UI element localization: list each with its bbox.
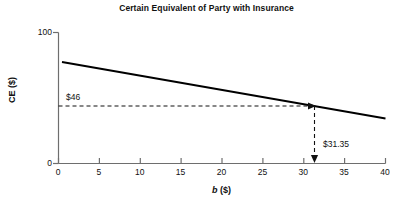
b-arrowhead-icon [311, 155, 318, 163]
chart-plot [0, 0, 413, 201]
annotation-horizontal-dashed-line [59, 102, 317, 109]
x-axis-ticks [59, 158, 386, 164]
chart-figure: Certain Equivalent of Party with Insuran… [0, 0, 413, 201]
data-series-line [62, 62, 386, 119]
axis-lines [59, 33, 386, 164]
annotation-vertical-dashed-line [311, 106, 318, 163]
y-axis-ticks [53, 33, 59, 164]
